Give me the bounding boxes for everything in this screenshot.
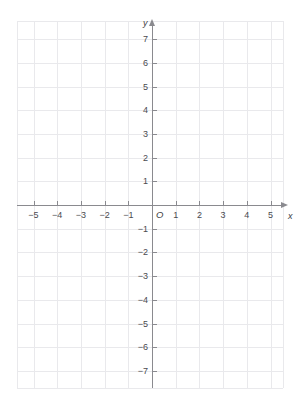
gridline-horizontal	[17, 63, 283, 64]
y-tick-label: 5	[126, 83, 148, 92]
gridline-horizontal	[17, 276, 283, 277]
y-axis-tick	[153, 158, 157, 159]
y-axis-label: y	[143, 19, 148, 28]
gridline-horizontal	[17, 371, 283, 372]
gridline-horizontal	[17, 324, 283, 325]
origin-label: O	[156, 210, 163, 220]
x-tick-label: 2	[189, 211, 209, 220]
y-tick-label: −6	[126, 343, 148, 352]
y-tick-label: 4	[126, 106, 148, 115]
gridline-horizontal	[17, 87, 283, 88]
y-tick-label: −5	[126, 320, 148, 329]
x-axis-tick	[199, 201, 200, 205]
gridline-horizontal	[17, 300, 283, 301]
y-axis-line	[152, 24, 153, 388]
x-tick-label: −1	[118, 211, 138, 220]
y-tick-label: 3	[126, 130, 148, 139]
x-axis-tick	[223, 201, 224, 205]
y-tick-label: 6	[126, 59, 148, 68]
y-axis-tick	[153, 39, 157, 40]
x-tick-label: 4	[237, 211, 257, 220]
y-tick-label: 1	[126, 177, 148, 186]
y-axis-tick	[153, 252, 157, 253]
x-axis-line	[17, 205, 282, 206]
gridline-horizontal	[17, 39, 283, 40]
gridline-horizontal	[17, 110, 283, 111]
gridline-horizontal	[17, 181, 283, 182]
x-axis-tick	[176, 201, 177, 205]
x-tick-label: −5	[24, 211, 44, 220]
x-axis-tick	[128, 201, 129, 205]
y-axis-tick	[153, 371, 157, 372]
x-axis-tick	[34, 201, 35, 205]
y-tick-label: 2	[126, 154, 148, 163]
y-axis-tick	[153, 229, 157, 230]
coordinate-plane: −5−4−3−2−1123457654321−1−2−3−4−5−6−7 y x…	[0, 0, 300, 404]
y-tick-label: 7	[126, 35, 148, 44]
y-tick-label: −3	[126, 272, 148, 281]
x-tick-label: −4	[47, 211, 67, 220]
gridline-horizontal	[17, 347, 283, 348]
x-tick-label: 3	[213, 211, 233, 220]
x-axis-tick	[81, 201, 82, 205]
y-axis-tick	[153, 181, 157, 182]
x-axis-tick	[57, 201, 58, 205]
y-axis-arrowhead-icon	[149, 19, 155, 26]
y-axis-tick	[153, 87, 157, 88]
x-axis-tick	[247, 201, 248, 205]
x-axis-arrowhead-icon	[281, 202, 288, 208]
y-axis-tick	[153, 324, 157, 325]
gridline-horizontal	[17, 252, 283, 253]
y-axis-tick	[153, 110, 157, 111]
y-axis-tick	[153, 63, 157, 64]
y-axis-tick	[153, 300, 157, 301]
x-axis-label: x	[288, 212, 293, 221]
gridline-horizontal	[17, 388, 283, 389]
x-tick-label: 1	[166, 211, 186, 220]
y-axis-tick	[153, 347, 157, 348]
y-axis-tick	[153, 276, 157, 277]
gridline-horizontal	[17, 134, 283, 135]
y-tick-label: −7	[126, 367, 148, 376]
x-tick-label: −2	[95, 211, 115, 220]
y-tick-label: −4	[126, 296, 148, 305]
x-axis-tick	[105, 201, 106, 205]
gridline-horizontal	[17, 229, 283, 230]
y-tick-label: −2	[126, 248, 148, 257]
x-tick-label: 5	[261, 211, 281, 220]
y-axis-tick	[153, 134, 157, 135]
gridline-horizontal	[17, 158, 283, 159]
y-tick-label: −1	[126, 225, 148, 234]
x-axis-tick	[271, 201, 272, 205]
x-tick-label: −3	[71, 211, 91, 220]
